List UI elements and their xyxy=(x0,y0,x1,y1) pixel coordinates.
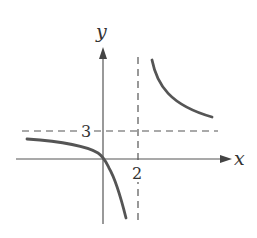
y-axis-label: y xyxy=(95,20,107,42)
vertical-asymptote-label: 2 xyxy=(132,164,142,183)
x-axis-arrow-icon xyxy=(220,155,232,163)
horizontal-asymptote-label: 3 xyxy=(81,122,91,141)
x-axis-label: x xyxy=(234,147,245,169)
y-axis-arrow-icon xyxy=(99,47,107,59)
left-branch-curve xyxy=(27,139,126,218)
rational-function-graph: y x 3 2 xyxy=(0,0,257,238)
right-branch-curve xyxy=(152,60,212,117)
